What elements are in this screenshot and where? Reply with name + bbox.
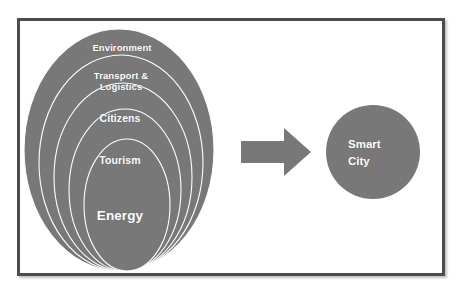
right-arrow-icon [241, 128, 311, 176]
ring-shape-energy[interactable] [84, 139, 170, 271]
diagram-canvas: Environment Transport & Logistics Citize… [0, 0, 465, 296]
result-node-shape-smart-city[interactable] [326, 105, 420, 199]
diagram-graphics [0, 0, 465, 296]
